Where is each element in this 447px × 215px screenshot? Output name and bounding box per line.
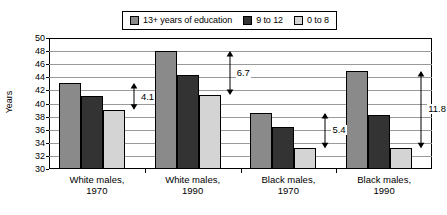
bar — [103, 110, 125, 169]
y-tick-label: 38 — [35, 113, 45, 122]
category-label-line: 1970 — [49, 185, 145, 196]
y-tick-label: 34 — [35, 139, 45, 148]
y-tick-label: 32 — [35, 152, 45, 161]
legend-label-0-to-8: 0 to 8 — [307, 16, 329, 25]
chart-legend: 13+ years of education 9 to 12 0 to 8 — [122, 11, 337, 30]
legend-label-9-to-12: 9 to 12 — [256, 16, 283, 25]
difference-value-label: 4.1 — [140, 92, 155, 102]
category-label-line: Black males, — [336, 174, 432, 185]
bar — [368, 115, 390, 169]
category-label: White males,1990 — [145, 174, 241, 196]
bar — [199, 95, 221, 169]
difference-arrow — [128, 83, 140, 110]
difference-arrow — [319, 113, 331, 148]
legend-swatch-icon-13-plus-years — [130, 16, 139, 25]
x-axis-tick — [145, 169, 146, 173]
category-label-line: Black males, — [241, 174, 337, 185]
difference-arrow — [224, 51, 236, 95]
category-label: White males,1970 — [49, 174, 145, 196]
bar — [155, 51, 177, 169]
bar — [272, 127, 294, 169]
category-label-line: White males, — [145, 174, 241, 185]
category-label-line: 1990 — [145, 185, 241, 196]
y-tick-label: 44 — [35, 73, 45, 82]
legend-label-13-plus-years: 13+ years of education — [143, 16, 232, 25]
difference-value-label: 11.8 — [427, 104, 447, 114]
difference-value-label: 5.4 — [331, 125, 346, 135]
y-tick-label: 50 — [35, 34, 45, 43]
y-tick-label: 30 — [35, 165, 45, 174]
y-axis-title-text: Years — [4, 91, 14, 114]
category-label: Black males,1990 — [336, 174, 432, 196]
bar — [250, 113, 272, 169]
y-tick-label: 36 — [35, 126, 45, 135]
category-label-line: 1990 — [336, 185, 432, 196]
legend-item-9-to-12: 9 to 12 — [243, 16, 283, 25]
difference-value-label: 6.7 — [236, 68, 251, 78]
category-label: Black males,1970 — [241, 174, 337, 196]
difference-arrow — [415, 71, 427, 148]
bar — [81, 96, 103, 169]
y-tick-label: 40 — [35, 100, 45, 109]
plot-area: 3032343638404244464850 4.16.75.411.8 — [49, 38, 432, 169]
y-axis-title: Years — [2, 62, 16, 142]
bar-group — [241, 38, 337, 169]
legend-item-13-plus-years: 13+ years of education — [130, 16, 232, 25]
bar — [177, 75, 199, 169]
legend-swatch-icon-9-to-12 — [243, 16, 252, 25]
category-label-line: 1970 — [241, 185, 337, 196]
bar — [59, 83, 81, 169]
y-tick-label: 48 — [35, 47, 45, 56]
y-tick-mark — [46, 169, 49, 170]
bar — [294, 148, 316, 169]
x-axis-tick — [336, 169, 337, 173]
y-tick-label: 42 — [35, 86, 45, 95]
x-axis-tick — [241, 169, 242, 173]
legend-swatch-icon-0-to-8 — [294, 16, 303, 25]
y-tick-label: 46 — [35, 60, 45, 69]
legend-item-0-to-8: 0 to 8 — [294, 16, 329, 25]
bar — [390, 148, 412, 169]
bar — [346, 71, 368, 169]
category-label-line: White males, — [49, 174, 145, 185]
